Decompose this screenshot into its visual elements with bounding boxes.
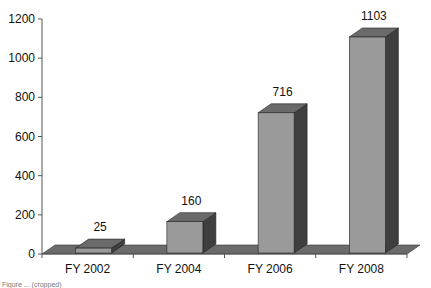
x-category-label: FY 2004: [156, 262, 201, 276]
bar-fy-2004: [167, 213, 216, 253]
bar-fy-2008: [349, 28, 398, 253]
y-tick-label: 800: [15, 90, 35, 104]
bar-chart: 02004006008001000120025FY 2002160FY 2004…: [0, 0, 431, 288]
x-category-label: FY 2008: [339, 262, 384, 276]
data-label: 160: [181, 194, 201, 208]
data-label: 25: [93, 220, 107, 234]
y-tick-label: 1200: [8, 12, 35, 26]
figure-caption: Figure ... (cropped): [2, 281, 62, 288]
y-tick-label: 400: [15, 169, 35, 183]
y-tick-label: 200: [15, 208, 35, 222]
data-label: 1103: [361, 9, 387, 23]
y-tick-label: 1000: [8, 51, 35, 65]
y-tick-label: 600: [15, 130, 35, 144]
y-tick-label: 0: [28, 247, 35, 261]
data-label: 716: [273, 85, 293, 99]
bar-fy-2006: [258, 104, 307, 253]
x-category-label: FY 2006: [248, 262, 293, 276]
x-category-label: FY 2002: [65, 262, 110, 276]
